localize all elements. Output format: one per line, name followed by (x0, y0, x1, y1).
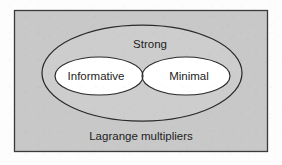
informative-label: Informative (68, 70, 125, 82)
venn-diagram: Strong Informative Minimal Lagrange mult… (0, 0, 282, 165)
strong-label: Strong (133, 38, 167, 50)
figure-plate: Strong Informative Minimal Lagrange mult… (0, 0, 282, 165)
minimal-label: Minimal (169, 70, 209, 82)
lagrange-multipliers-caption: Lagrange multipliers (89, 130, 193, 142)
